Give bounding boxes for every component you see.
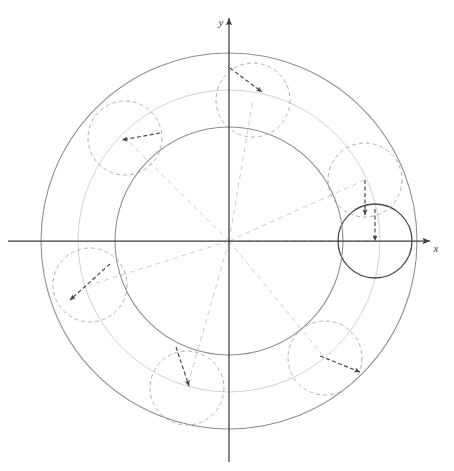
epicycloid-diagram: x y: [0, 0, 454, 471]
axis-label-layer: x y: [218, 16, 439, 254]
tracing-arrow-5: [176, 347, 189, 386]
tracing-arrow-3: [122, 133, 160, 140]
rolling-circle-5: [150, 351, 224, 425]
radial-guide-2: [229, 100, 253, 241]
tracing-arrow-6: [320, 356, 360, 372]
x-axis-label: x: [433, 242, 439, 254]
radial-guide-6: [229, 241, 325, 358]
radial-guide-layer: [90, 100, 375, 388]
figure-root: x y: [0, 0, 454, 471]
radial-guide-5: [187, 241, 229, 388]
radial-guide-3: [125, 138, 229, 241]
y-axis-label: y: [218, 16, 224, 28]
tracing-arrow-4: [70, 264, 110, 300]
radial-guide-4: [90, 241, 229, 285]
tracing-arrow-2: [230, 68, 262, 92]
axes-layer: [8, 18, 430, 462]
rolling-circle-2: [216, 63, 290, 137]
